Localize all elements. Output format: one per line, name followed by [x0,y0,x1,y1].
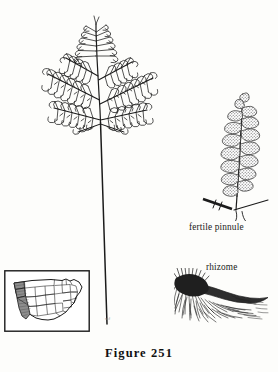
label-fertile-pinnule: fertile pinnule [189,222,244,232]
label-rhizome: rhizome [206,262,238,272]
fertile-pinnule-illustration [186,86,278,221]
us-range-map-inset [4,270,90,332]
rhizome-illustration [174,268,278,346]
figure-plate: fertile pinnule rhizome scf Figure 251 [0,0,278,372]
artist-credit-mark: scf [105,317,110,321]
scale-bar [203,199,268,221]
figure-caption: Figure 251 [0,346,278,361]
